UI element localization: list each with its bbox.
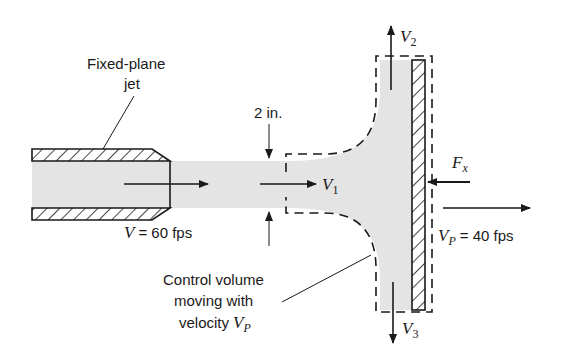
nozzle-leader-line [103, 96, 134, 149]
diameter-label: 2 in. [254, 104, 282, 121]
plate-velocity-label: VP= 40 fps [438, 226, 514, 248]
cv-label-line1: Control volume [163, 271, 264, 288]
nozzle-label-line2: jet [123, 75, 141, 92]
v2-label: V2 [400, 27, 416, 49]
cv-label-line2: moving with [174, 292, 253, 309]
moving-plate [412, 60, 425, 310]
jet-impact-diagram: Fixed-plane jet V1 2 in. V2 V3 Fx VP= 40… [0, 0, 563, 361]
jet-velocity-label: V= 60 fps [124, 223, 192, 242]
nozzle-bottom-wall [32, 208, 170, 220]
cv-label-line3: velocityVP [179, 313, 251, 335]
fx-label: Fx [451, 153, 468, 175]
jet-spread [285, 60, 412, 310]
control-volume-leader-line [282, 255, 371, 302]
v3-label: V3 [402, 319, 418, 341]
nozzle-label-line1: Fixed-plane [87, 55, 165, 72]
nozzle-top-wall [32, 149, 170, 161]
